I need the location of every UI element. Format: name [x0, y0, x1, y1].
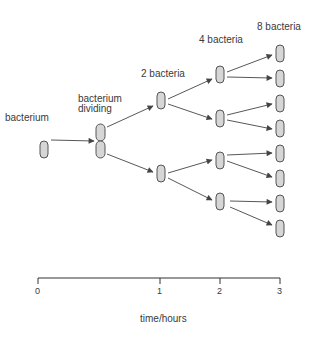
axis-tick-label: 2: [217, 286, 222, 296]
bacterium-cell-g3d: [276, 120, 284, 137]
growth-arrow: [107, 106, 153, 127]
growth-arrow: [230, 201, 272, 202]
bacterium-cell-g3b: [276, 70, 284, 87]
axis-tick-label: 0: [35, 286, 40, 296]
bacterium-cell-g3h: [276, 220, 284, 237]
growth-arrow: [168, 178, 212, 200]
bacterium-cell-g3c: [276, 95, 284, 112]
axis-tick-label: 1: [157, 286, 162, 296]
growth-arrow: [227, 55, 272, 72]
growth-arrow: [168, 104, 212, 119]
time-axis: [38, 278, 280, 284]
label-bacterium: bacterium: [5, 112, 49, 123]
bacterium-cell-g3g: [276, 195, 284, 212]
label-8-bacteria: 8 bacteria: [257, 21, 301, 32]
bacterium-cell-g1a: [157, 92, 165, 109]
label-2-bacteria: 2 bacteria: [141, 68, 185, 79]
growth-arrow: [227, 104, 272, 115]
growth-arrow: [227, 153, 272, 155]
bacterium-cell-g2d: [216, 193, 224, 210]
bacterium-cell-div-top: [96, 124, 105, 141]
label-4-bacteria: 4 bacteria: [199, 34, 243, 45]
growth-arrow: [168, 160, 212, 173]
bacterium-cell-g3a: [276, 45, 284, 62]
growth-arrow: [168, 79, 212, 99]
bacterial-division-diagram: bacteriumbacteriumdividing2 bacteria4 ba…: [0, 0, 314, 337]
bacterium-cell-g1b: [157, 165, 165, 182]
growth-arrow: [230, 207, 272, 225]
bacterium-cell-g3e: [276, 145, 284, 162]
axis-tick-label: 3: [277, 286, 282, 296]
bacterium-cell-g2a: [216, 66, 224, 83]
growth-arrow: [227, 161, 272, 177]
bacterium-cell-g0: [40, 141, 48, 158]
growth-arrow: [51, 140, 94, 141]
growth-arrow: [107, 154, 153, 172]
bacterium-cell-g3f: [276, 170, 284, 187]
growth-arrow: [227, 120, 272, 129]
axis-title: time/hours: [140, 313, 187, 324]
bacterium-cell-div-bot: [96, 141, 105, 158]
arrows-layer: [51, 55, 272, 225]
growth-arrow: [227, 77, 272, 78]
label-bacterium-dividing-2: dividing: [78, 103, 112, 114]
bacterium-cell-g2c: [216, 152, 224, 169]
bacterium-cell-g2b: [216, 110, 224, 127]
